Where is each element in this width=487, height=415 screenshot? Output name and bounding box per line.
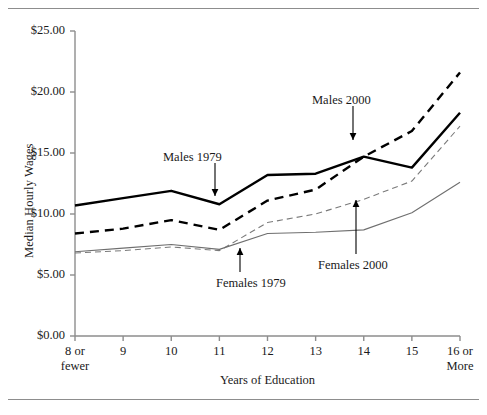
annotation-label-females-1979: Females 1979 <box>216 276 286 291</box>
annotation-label-females-2000: Females 2000 <box>318 258 388 273</box>
annotation-label-males-1979: Males 1979 <box>163 150 222 165</box>
annotation-arrowhead-males-1979 <box>212 189 219 196</box>
annotation-label-males-2000: Males 2000 <box>312 93 371 108</box>
y-axis-tick-label: $15.00 <box>3 145 65 160</box>
x-axis-tick-label: 16 orMore <box>429 344 487 374</box>
annotation-arrowhead-females-1979 <box>237 248 244 255</box>
y-axis-tick-label: $20.00 <box>3 84 65 99</box>
series-line-females-2000 <box>75 182 460 252</box>
annotation-arrowhead-males-2000 <box>350 133 357 140</box>
y-axis-tick-label: $10.00 <box>3 206 65 221</box>
series-line-males-1979 <box>75 113 460 206</box>
chart-figure: Median Hourly Wages Years of Education $… <box>0 0 487 415</box>
y-axis-tick-label: $0.00 <box>3 328 65 343</box>
series-line-males-2000 <box>75 72 460 233</box>
y-axis-tick-label: $5.00 <box>3 267 65 282</box>
y-axis-tick-label: $25.00 <box>3 23 65 38</box>
